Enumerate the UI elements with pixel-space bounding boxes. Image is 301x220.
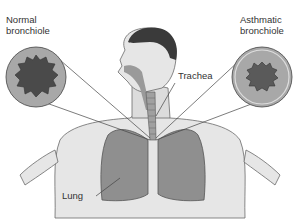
lung-label: Lung <box>62 190 83 201</box>
label-line: bronchiole <box>240 25 284 36</box>
label-line: Asthmatic <box>240 14 284 25</box>
trachea-label: Trachea <box>178 70 213 81</box>
left-arm <box>20 150 58 185</box>
left-lung <box>101 130 148 201</box>
normal-bronchiole-circle <box>6 47 66 107</box>
right-arm <box>244 150 280 185</box>
right-lung <box>158 130 205 201</box>
asthmatic-bronchiole-label: Asthmatic bronchiole <box>240 14 284 36</box>
label-line: bronchiole <box>6 25 50 36</box>
normal-bronchiole-label: Normal bronchiole <box>6 14 50 36</box>
asthma-diagram: Normal bronchiole Asthmatic bronchiole T… <box>0 0 301 220</box>
asthmatic-bronchiole-circle <box>232 47 292 107</box>
label-line: Normal <box>6 14 50 25</box>
